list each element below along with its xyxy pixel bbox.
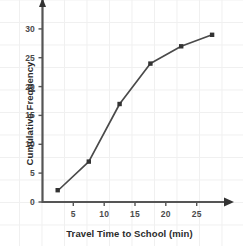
data-line xyxy=(58,35,212,191)
data-point xyxy=(179,44,183,48)
cumulative-frequency-chart: 30 25 20 15 10 5 0 5 10 15 20 25 Cumulat… xyxy=(0,0,243,246)
data-point xyxy=(56,188,60,192)
x-tick-label-5: 5 xyxy=(71,209,76,219)
data-point-markers xyxy=(56,33,215,193)
y-axis-arrow-icon xyxy=(39,0,46,7)
y-tick-label-0: 0 xyxy=(18,197,35,207)
data-point xyxy=(87,159,91,163)
y-tick-label-30: 30 xyxy=(18,24,35,34)
x-axis-title: Travel Time to School (min) xyxy=(0,228,243,239)
x-tick-label-25: 25 xyxy=(192,209,202,219)
x-tick-label-20: 20 xyxy=(161,209,171,219)
plot-area xyxy=(0,0,243,246)
x-tick-label-10: 10 xyxy=(99,209,109,219)
data-point xyxy=(210,33,214,37)
x-axis-arrow-icon xyxy=(224,198,234,207)
x-tick-label-15: 15 xyxy=(130,209,140,219)
data-point xyxy=(148,61,152,65)
y-axis-title: Cumulative Frequency xyxy=(24,39,35,189)
data-point xyxy=(117,102,121,106)
